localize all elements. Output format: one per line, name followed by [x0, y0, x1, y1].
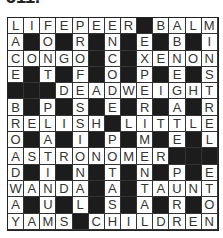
letter-cell[interactable]: T	[105, 165, 121, 181]
letter-cell[interactable]: L	[137, 214, 153, 230]
letter-cell[interactable]: P	[105, 132, 121, 148]
letter-cell[interactable]: E	[137, 148, 153, 164]
letter-cell[interactable]: A	[105, 181, 121, 197]
letter-cell[interactable]: E	[105, 18, 121, 34]
letter-cell[interactable]: E	[169, 132, 185, 148]
letter-cell[interactable]: A	[8, 34, 24, 50]
letter-cell[interactable]: A	[73, 181, 89, 197]
letter-cell[interactable]: P	[137, 67, 153, 83]
letter-cell[interactable]: P	[40, 99, 56, 115]
letter-cell[interactable]: A	[8, 148, 24, 164]
letter-cell[interactable]: N	[202, 51, 218, 67]
letter-cell[interactable]: R	[137, 99, 153, 115]
letter-cell[interactable]: I	[40, 165, 56, 181]
letter-cell[interactable]: W	[8, 181, 24, 197]
letter-cell[interactable]: O	[186, 51, 202, 67]
letter-cell[interactable]: E	[202, 116, 218, 132]
letter-cell[interactable]: L	[121, 116, 137, 132]
letter-cell[interactable]: E	[186, 214, 202, 230]
letter-cell[interactable]: A	[89, 83, 105, 99]
letter-cell[interactable]: A	[137, 197, 153, 213]
letter-cell[interactable]: A	[8, 197, 24, 213]
letter-cell[interactable]: R	[169, 197, 185, 213]
letter-cell[interactable]: O	[8, 132, 24, 148]
letter-cell[interactable]: N	[89, 148, 105, 164]
letter-cell[interactable]: C	[105, 51, 121, 67]
letter-cell[interactable]: R	[169, 214, 185, 230]
letter-cell[interactable]: S	[202, 67, 218, 83]
letter-cell[interactable]: R	[202, 99, 218, 115]
letter-cell[interactable]: M	[202, 18, 218, 34]
letter-cell[interactable]: E	[202, 165, 218, 181]
letter-cell[interactable]: E	[105, 99, 121, 115]
letter-cell[interactable]: U	[40, 197, 56, 213]
letter-cell[interactable]: H	[89, 116, 105, 132]
letter-cell[interactable]: A	[153, 181, 169, 197]
letter-cell[interactable]: S	[24, 148, 40, 164]
letter-cell[interactable]: H	[186, 83, 202, 99]
letter-cell[interactable]: D	[56, 181, 72, 197]
letter-cell[interactable]: B	[8, 99, 24, 115]
letter-cell[interactable]: E	[137, 83, 153, 99]
letter-cell[interactable]: O	[202, 197, 218, 213]
letter-cell[interactable]: P	[169, 165, 185, 181]
letter-cell[interactable]: N	[186, 181, 202, 197]
letter-cell[interactable]: M	[121, 148, 137, 164]
letter-cell[interactable]: T	[153, 116, 169, 132]
letter-cell[interactable]: A	[24, 181, 40, 197]
letter-cell[interactable]: E	[73, 83, 89, 99]
letter-cell[interactable]: L	[8, 18, 24, 34]
letter-cell[interactable]: P	[73, 18, 89, 34]
letter-cell[interactable]: D	[8, 165, 24, 181]
letter-cell[interactable]: L	[186, 116, 202, 132]
letter-cell[interactable]: M	[137, 132, 153, 148]
letter-cell[interactable]: O	[73, 148, 89, 164]
letter-cell[interactable]: N	[137, 165, 153, 181]
letter-cell[interactable]: E	[56, 18, 72, 34]
letter-cell[interactable]: O	[73, 51, 89, 67]
letter-cell[interactable]: I	[202, 34, 218, 50]
letter-cell[interactable]: C	[89, 214, 105, 230]
letter-cell[interactable]: R	[153, 148, 169, 164]
letter-cell[interactable]: R	[73, 34, 89, 50]
letter-cell[interactable]: N	[40, 51, 56, 67]
letter-cell[interactable]: E	[153, 51, 169, 67]
letter-cell[interactable]: L	[186, 18, 202, 34]
letter-cell[interactable]: N	[169, 51, 185, 67]
letter-cell[interactable]: E	[89, 18, 105, 34]
letter-cell[interactable]: F	[40, 18, 56, 34]
letter-cell[interactable]: S	[73, 116, 89, 132]
letter-cell[interactable]: A	[40, 132, 56, 148]
letter-cell[interactable]: R	[56, 148, 72, 164]
letter-cell[interactable]: R	[121, 18, 137, 34]
letter-cell[interactable]: D	[153, 214, 169, 230]
letter-cell[interactable]: I	[153, 83, 169, 99]
letter-cell[interactable]: T	[40, 67, 56, 83]
letter-cell[interactable]: I	[137, 116, 153, 132]
letter-cell[interactable]: L	[73, 197, 89, 213]
letter-cell[interactable]: N	[202, 214, 218, 230]
letter-cell[interactable]: T	[202, 83, 218, 99]
letter-cell[interactable]: E	[137, 34, 153, 50]
letter-cell[interactable]: B	[169, 34, 185, 50]
letter-cell[interactable]: D	[105, 83, 121, 99]
letter-cell[interactable]: T	[137, 181, 153, 197]
letter-cell[interactable]: A	[24, 214, 40, 230]
letter-cell[interactable]: X	[137, 51, 153, 67]
letter-cell[interactable]: N	[105, 34, 121, 50]
letter-cell[interactable]: H	[105, 214, 121, 230]
letter-cell[interactable]: R	[8, 116, 24, 132]
letter-cell[interactable]: S	[56, 214, 72, 230]
letter-cell[interactable]: T	[202, 181, 218, 197]
letter-cell[interactable]: A	[169, 99, 185, 115]
letter-cell[interactable]: O	[40, 34, 56, 50]
letter-cell[interactable]: U	[169, 181, 185, 197]
letter-cell[interactable]: S	[105, 197, 121, 213]
letter-cell[interactable]: M	[40, 214, 56, 230]
letter-cell[interactable]: F	[73, 67, 89, 83]
letter-cell[interactable]: W	[121, 83, 137, 99]
letter-cell[interactable]: I	[24, 18, 40, 34]
letter-cell[interactable]: S	[73, 99, 89, 115]
letter-cell[interactable]: I	[121, 214, 137, 230]
letter-cell[interactable]: T	[40, 148, 56, 164]
